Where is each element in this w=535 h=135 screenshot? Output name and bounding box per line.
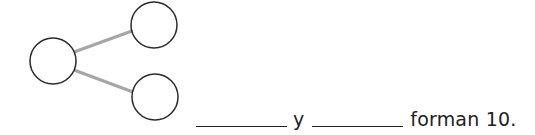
bond-line-top [74, 31, 132, 52]
part-circle-top[interactable] [131, 2, 177, 48]
whole-circle[interactable] [30, 38, 76, 84]
fill-in-sentence: y forman 10. [196, 104, 517, 130]
part-circle-bottom[interactable] [132, 74, 178, 120]
bond-line-bottom [74, 70, 133, 92]
answer-blank-1[interactable] [196, 106, 287, 127]
answer-blank-2[interactable] [312, 106, 403, 127]
connector-word: y [293, 108, 304, 130]
sentence-ending: forman 10. [410, 108, 516, 130]
number-bond-diagram [0, 0, 200, 135]
